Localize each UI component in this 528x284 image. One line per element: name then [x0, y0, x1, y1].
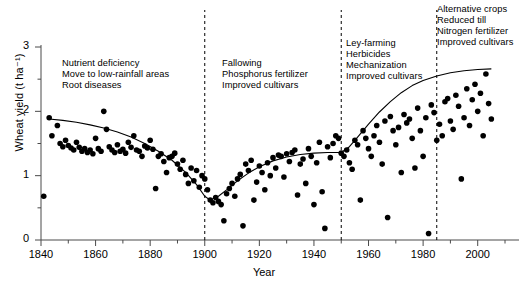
- data-point: [251, 197, 257, 203]
- data-point: [434, 137, 440, 143]
- data-point: [229, 181, 235, 187]
- data-point: [71, 147, 77, 153]
- data-point: [401, 112, 407, 118]
- data-point: [297, 161, 303, 167]
- plot-canvas: [0, 0, 528, 284]
- data-point: [248, 157, 254, 163]
- data-point: [191, 178, 197, 184]
- data-point: [475, 109, 481, 115]
- data-point: [90, 151, 96, 157]
- data-point: [218, 202, 224, 208]
- data-point: [55, 123, 61, 129]
- data-point: [407, 116, 413, 122]
- data-point: [41, 193, 47, 199]
- data-point: [139, 154, 145, 160]
- data-point: [93, 136, 99, 142]
- data-point: [112, 150, 118, 156]
- data-point: [478, 91, 484, 97]
- data-point: [448, 118, 454, 124]
- data-point: [377, 139, 383, 145]
- data-point: [227, 186, 233, 192]
- data-point: [74, 139, 80, 145]
- data-point: [221, 218, 227, 224]
- data-point: [237, 172, 243, 178]
- data-point: [257, 163, 263, 169]
- data-point: [412, 165, 418, 171]
- data-point: [322, 226, 328, 232]
- data-point: [265, 160, 271, 166]
- data-point: [126, 139, 132, 145]
- data-point: [232, 193, 238, 199]
- data-point: [153, 186, 159, 192]
- data-point: [284, 151, 290, 157]
- data-point: [262, 187, 268, 193]
- data-point: [145, 145, 151, 151]
- data-point: [278, 154, 284, 160]
- data-point: [287, 159, 293, 165]
- data-point: [489, 116, 495, 122]
- data-point: [101, 109, 107, 115]
- data-point: [63, 137, 69, 143]
- data-point: [467, 123, 473, 129]
- data-point: [224, 191, 230, 197]
- data-point: [325, 144, 331, 150]
- data-point: [147, 137, 153, 143]
- data-point: [128, 145, 134, 151]
- data-point: [349, 166, 355, 172]
- data-point: [439, 133, 445, 139]
- data-point: [281, 174, 287, 180]
- data-point: [374, 123, 380, 129]
- data-point: [295, 192, 301, 198]
- data-point: [161, 159, 167, 165]
- data-point: [194, 168, 200, 174]
- data-point: [177, 166, 183, 172]
- data-point: [314, 160, 320, 166]
- data-point: [371, 133, 377, 139]
- data-point: [390, 128, 396, 134]
- data-point: [292, 147, 298, 153]
- data-point: [423, 115, 429, 121]
- data-point: [420, 154, 426, 160]
- data-point: [431, 110, 437, 116]
- data-point: [409, 136, 415, 142]
- data-point: [270, 155, 276, 161]
- data-point: [243, 161, 249, 167]
- data-point: [396, 125, 402, 131]
- data-point: [393, 142, 399, 148]
- data-point: [472, 82, 478, 88]
- data-point: [330, 141, 336, 147]
- data-point: [437, 121, 443, 127]
- data-point: [366, 146, 372, 152]
- data-point: [300, 156, 306, 162]
- data-point: [308, 154, 314, 160]
- data-point: [205, 187, 211, 193]
- data-point: [382, 118, 388, 124]
- data-point: [363, 136, 369, 142]
- data-point: [418, 128, 424, 134]
- data-point: [385, 215, 391, 221]
- data-point: [46, 115, 52, 121]
- data-point: [183, 172, 189, 178]
- data-point: [175, 161, 181, 167]
- data-point: [246, 168, 252, 174]
- data-point: [368, 154, 374, 160]
- data-point: [461, 115, 467, 121]
- data-point: [306, 146, 312, 152]
- data-point: [450, 127, 456, 133]
- data-point: [456, 103, 462, 109]
- data-point: [358, 197, 364, 203]
- data-point: [210, 200, 216, 206]
- data-point: [429, 102, 435, 108]
- data-point: [158, 151, 164, 157]
- era-dividers: [205, 10, 437, 240]
- data-point: [188, 165, 194, 171]
- data-point: [202, 176, 208, 182]
- wheat-yield-chart: Wheat yield (t ha⁻¹) Year 0123 184018601…: [0, 0, 528, 284]
- data-point: [341, 154, 347, 160]
- data-point: [336, 136, 342, 142]
- data-point: [311, 202, 317, 208]
- data-point: [273, 165, 279, 171]
- data-point: [398, 170, 404, 176]
- data-point: [98, 148, 104, 154]
- data-point: [319, 189, 325, 195]
